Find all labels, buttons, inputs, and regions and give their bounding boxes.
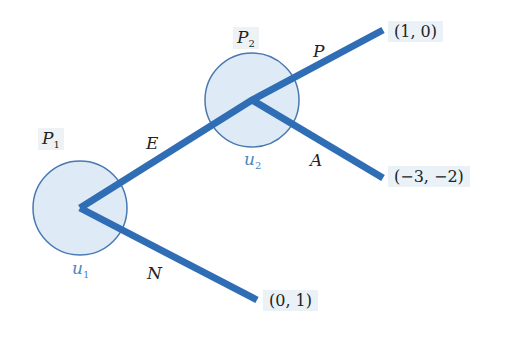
utility-label-u2: u2: [244, 149, 261, 171]
edge-label-e: E: [146, 133, 158, 153]
player-label-p1: P1: [38, 128, 64, 150]
edge-n: [80, 208, 257, 300]
edge-label-n: N: [147, 263, 162, 283]
player-label-p2: P2: [233, 27, 259, 49]
payoff-leaf-n: (0, 1): [263, 290, 318, 311]
edge-label-a: A: [310, 150, 322, 170]
payoff-leaf-a: (−3, −2): [388, 166, 470, 187]
payoff-leaf-p: (1, 0): [388, 21, 443, 42]
utility-label-u1: u1: [72, 258, 89, 280]
edge-label-p: P: [313, 41, 324, 61]
